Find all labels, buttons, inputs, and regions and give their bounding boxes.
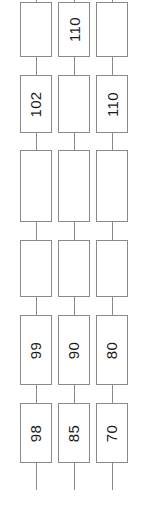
connector-line: [74, 297, 75, 315]
node-label: 85: [66, 424, 81, 441]
column-3: 1108070: [96, 0, 128, 529]
column-1: 1029998: [20, 0, 52, 529]
connector-line: [112, 222, 113, 240]
connector-line: [36, 133, 37, 150]
connector-line-bottom: [36, 463, 37, 490]
node-box[interactable]: [58, 240, 90, 297]
connector-line-bottom: [74, 463, 75, 490]
connector-line: [74, 222, 75, 240]
connector-line-bottom: [112, 463, 113, 490]
node-label: 110: [66, 17, 81, 42]
node-box[interactable]: 110: [58, 2, 90, 57]
node-label: 90: [66, 341, 81, 358]
node-label: 110: [104, 92, 119, 117]
node-box[interactable]: 99: [20, 315, 52, 385]
node-box[interactable]: 90: [58, 315, 90, 385]
connector-line: [112, 385, 113, 403]
connector-line: [74, 385, 75, 403]
node-box[interactable]: [20, 2, 52, 57]
node-box[interactable]: [20, 150, 52, 222]
node-box[interactable]: [20, 240, 52, 297]
node-box[interactable]: 110: [96, 75, 128, 133]
node-box[interactable]: 102: [20, 75, 52, 133]
node-box[interactable]: [96, 150, 128, 222]
node-box[interactable]: [58, 150, 90, 222]
node-label: 70: [104, 424, 119, 441]
node-box[interactable]: [58, 75, 90, 133]
node-label: 99: [28, 341, 43, 358]
diagram-canvas: 102999811090851108070: [0, 0, 143, 529]
connector-line: [36, 385, 37, 403]
node-box[interactable]: [96, 2, 128, 57]
connector-line: [36, 297, 37, 315]
node-box[interactable]: 98: [20, 403, 52, 463]
node-box[interactable]: [96, 240, 128, 297]
connector-line: [112, 133, 113, 150]
node-box[interactable]: 80: [96, 315, 128, 385]
connector-line: [112, 297, 113, 315]
connector-line: [36, 57, 37, 75]
node-box[interactable]: 85: [58, 403, 90, 463]
connector-line: [112, 57, 113, 75]
column-2: 1109085: [58, 0, 90, 529]
node-label: 102: [29, 91, 44, 117]
connector-line: [36, 222, 37, 240]
connector-line: [74, 133, 75, 150]
node-box[interactable]: 70: [96, 403, 128, 463]
connector-line: [74, 57, 75, 75]
node-label: 98: [28, 424, 43, 441]
node-label: 80: [104, 341, 119, 358]
